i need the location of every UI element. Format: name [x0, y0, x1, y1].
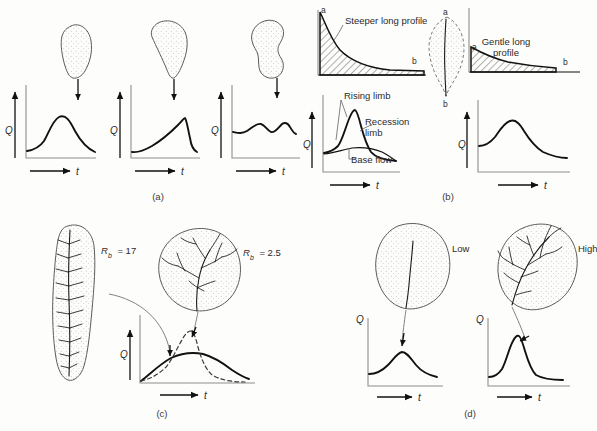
y-axis-label: Q: [110, 125, 118, 136]
rb-subscript: b: [108, 252, 112, 259]
y-axis-label: Q: [211, 125, 219, 136]
y-axis-label: Q: [458, 139, 466, 150]
y-axis-label: Q: [120, 349, 128, 360]
profile-end-label: b: [563, 57, 568, 67]
rising-limb-label: Rising limb: [344, 90, 390, 101]
profile-start-label: a: [472, 42, 477, 52]
rb-value: = 2.5: [257, 247, 281, 258]
y-axis-label: Q: [5, 125, 13, 136]
recession-limb-label-line1: Recession: [365, 116, 409, 127]
low-density-label: Low: [452, 243, 470, 254]
steep-profile-label: Steeper long profile: [345, 15, 427, 26]
rb-subscript: b: [250, 254, 254, 261]
basin-bottom-label: b: [443, 99, 448, 109]
hydrograph-controls-figure: Q t Q t Q t (a): [0, 0, 597, 431]
low-density-basin-shape: [376, 223, 450, 308]
round-basin-shape: [159, 228, 241, 310]
profile-end-label: b: [412, 56, 417, 66]
gentle-profile-label-line1: Gentle long: [482, 36, 531, 47]
y-axis-label: Q: [356, 314, 364, 325]
panel-caption-d: (d): [464, 408, 476, 419]
gentle-profile-label-line2: profile: [493, 47, 519, 58]
profile-start-label: a: [321, 5, 326, 15]
basin-top-label: a: [443, 7, 448, 17]
rb-value: = 17: [115, 245, 136, 256]
recession-limb-label-line2: limb: [365, 127, 382, 138]
high-density-label: High: [578, 243, 597, 254]
y-axis-label: Q: [303, 139, 311, 150]
panel-caption-a: (a): [152, 191, 164, 202]
panel-caption-b: (b): [442, 191, 454, 202]
base-flow-label: Base flow: [351, 154, 392, 165]
y-axis-label: Q: [476, 314, 484, 325]
panel-caption-c: (c): [156, 408, 167, 419]
